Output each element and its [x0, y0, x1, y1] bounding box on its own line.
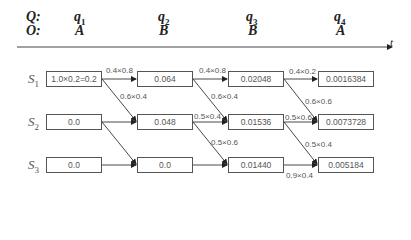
- cell-s3-t4: 0.005184: [318, 157, 374, 173]
- cell-s3-t2: 0.0: [137, 157, 193, 173]
- edge-label-t2-s2-s2: 0.5×0.4: [194, 112, 221, 121]
- edge-label-t2-s1-s2: 0.6×0.4: [211, 92, 238, 101]
- cell-s3-t3: 0.01440: [228, 157, 284, 173]
- cell-s1-t3: 0.02048: [228, 71, 284, 87]
- cell-s2-t3: 0.01536: [228, 114, 284, 130]
- cell-s1-t1: 1.0×0.2=0.2: [46, 71, 102, 87]
- cell-s1-t4: 0.0016384: [318, 71, 374, 87]
- edge-label-t3-s2-s2: 0.5×0.6: [285, 113, 312, 122]
- edge-label-t3-s3-s3: 0.9×0.4: [286, 171, 313, 180]
- cell-s2-t1: 0.0: [46, 114, 102, 130]
- edge-label-t1-s1-s1: 0.4×0.8: [106, 66, 133, 75]
- edge-label-t2-s2-s3: 0.5×0.6: [211, 138, 238, 147]
- state-label-s2: S2: [28, 114, 39, 132]
- edge-label-t3-s1-s2: 0.6×0.6: [305, 97, 332, 106]
- state-label-s3: S3: [28, 157, 39, 175]
- edge-label-t3-s2-s3: 0.5×0.4: [305, 140, 332, 149]
- edge-label-t2-s1-s1: 0.4×0.8: [199, 66, 226, 75]
- cell-s1-t2: 0.064: [137, 71, 193, 87]
- cell-s2-t4: 0.0073728: [318, 114, 374, 130]
- cell-s2-t2: 0.048: [137, 114, 193, 130]
- cell-s3-t1: 0.0: [46, 157, 102, 173]
- state-label-s1: S1: [28, 71, 39, 89]
- edge-label-t3-s1-s1: 0.4×0.2: [289, 67, 316, 76]
- edge-label-t1-s1-s2: 0.6×0.4: [120, 92, 147, 101]
